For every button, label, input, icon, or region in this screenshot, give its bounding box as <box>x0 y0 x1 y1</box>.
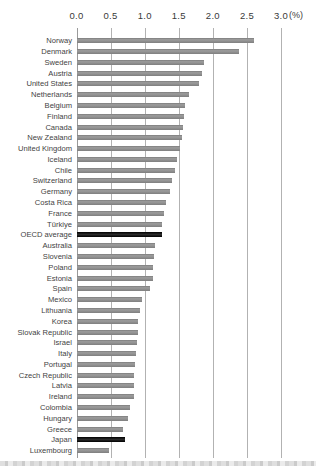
bar-row: Poland <box>0 262 316 273</box>
bar <box>77 168 175 173</box>
category-label: France <box>0 208 72 219</box>
category-label: Finland <box>0 111 72 122</box>
bar-row: Sweden <box>0 57 316 68</box>
bar <box>77 448 109 453</box>
bar <box>77 427 123 432</box>
category-label: Korea <box>0 316 72 327</box>
bar <box>77 405 130 410</box>
bar-row: Spain <box>0 283 316 294</box>
bar <box>77 351 136 356</box>
category-label: Costa Rica <box>0 197 72 208</box>
bar <box>77 81 199 86</box>
bar <box>77 265 153 270</box>
category-label: OECD average <box>0 229 72 240</box>
bar-row: Japan <box>0 434 316 445</box>
bar <box>77 135 182 140</box>
bar-row: Chile <box>0 165 316 176</box>
x-axis-tick-label: 1.0 <box>138 10 152 21</box>
bar-row: Estonia <box>0 273 316 284</box>
category-label: Greece <box>0 424 72 435</box>
category-label: Czech Republic <box>0 370 72 381</box>
category-label: Slovak Republic <box>0 327 72 338</box>
bar <box>77 146 180 151</box>
bar <box>77 178 172 183</box>
bar <box>77 103 185 108</box>
category-label: Spain <box>0 283 72 294</box>
category-label: Latvia <box>0 380 72 391</box>
category-label: Türkiye <box>0 219 72 230</box>
bar-row: Latvia <box>0 380 316 391</box>
category-label: Sweden <box>0 57 72 68</box>
bar <box>77 394 134 399</box>
category-label: United Kingdom <box>0 143 72 154</box>
category-label: Netherlands <box>0 89 72 100</box>
highlighted-bar <box>77 437 125 442</box>
category-label: Canada <box>0 122 72 133</box>
bar <box>77 92 189 97</box>
bar-row: Mexico <box>0 294 316 305</box>
bar <box>77 416 128 421</box>
bar <box>77 38 254 43</box>
bar-row: Netherlands <box>0 89 316 100</box>
axis-unit-label: (%) <box>289 10 303 20</box>
category-label: Luxembourg <box>0 445 72 456</box>
category-label: Slovenia <box>0 251 72 262</box>
bar-row: Slovak Republic <box>0 327 316 338</box>
category-label: Austria <box>0 68 72 79</box>
bar-row: OECD average <box>0 229 316 240</box>
category-label: Colombia <box>0 402 72 413</box>
x-axis-tick-label: 0.0 <box>69 10 83 21</box>
bar-row: Czech Republic <box>0 370 316 381</box>
bar-row: Slovenia <box>0 251 316 262</box>
bar-row: Germany <box>0 186 316 197</box>
cropped-caption-strip <box>0 461 316 466</box>
category-label: Mexico <box>0 294 72 305</box>
bar-row: Finland <box>0 111 316 122</box>
bar <box>77 125 183 130</box>
category-label: Poland <box>0 262 72 273</box>
bar-row: Canada <box>0 122 316 133</box>
bar <box>77 60 204 65</box>
bar <box>77 297 142 302</box>
bar-row: Colombia <box>0 402 316 413</box>
category-label: New Zealand <box>0 132 72 143</box>
category-label: Hungary <box>0 413 72 424</box>
bar <box>77 114 184 119</box>
bar <box>77 49 239 54</box>
bar <box>77 211 164 216</box>
bar <box>77 157 177 162</box>
bar <box>77 362 135 367</box>
bar-row: Israel <box>0 337 316 348</box>
bar-row: Lithuania <box>0 305 316 316</box>
bar <box>77 330 138 335</box>
bar <box>77 200 166 205</box>
bar-row: Korea <box>0 316 316 327</box>
bar-row: Norway <box>0 35 316 46</box>
bar <box>77 254 154 259</box>
bar-row: Switzerland <box>0 175 316 186</box>
category-label: Ireland <box>0 391 72 402</box>
bar-row: Iceland <box>0 154 316 165</box>
highlighted-bar <box>77 232 162 237</box>
bar <box>77 276 153 281</box>
category-label: Denmark <box>0 46 72 57</box>
x-axis-tick-label: 2.5 <box>240 10 254 21</box>
bar-row: Luxembourg <box>0 445 316 456</box>
bar-chart: (%) 0.00.51.01.52.02.53.0 NorwayDenmarkS… <box>0 0 316 466</box>
x-axis-tick-label: 0.5 <box>104 10 118 21</box>
bar-row: Hungary <box>0 413 316 424</box>
category-label: Germany <box>0 186 72 197</box>
category-label: Lithuania <box>0 305 72 316</box>
category-label: Portugal <box>0 359 72 370</box>
category-label: United States <box>0 78 72 89</box>
category-label: Switzerland <box>0 175 72 186</box>
category-label: Estonia <box>0 273 72 284</box>
bar <box>77 222 162 227</box>
bar-row: New Zealand <box>0 132 316 143</box>
x-axis-tick-label: 3.0 <box>274 10 288 21</box>
bar <box>77 340 137 345</box>
bar <box>77 243 155 248</box>
bar-row: United States <box>0 78 316 89</box>
bar-row: Costa Rica <box>0 197 316 208</box>
bar-row: Greece <box>0 424 316 435</box>
